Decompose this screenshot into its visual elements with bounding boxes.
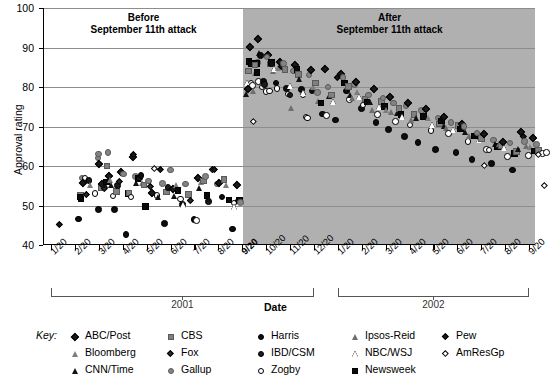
data-point <box>198 179 204 185</box>
data-point <box>107 177 113 183</box>
y-tick-label: 90 <box>6 43 34 53</box>
data-point <box>125 190 132 197</box>
data-point <box>108 182 114 188</box>
y-tick-label: 50 <box>6 201 34 211</box>
legend-marker-glyph <box>352 334 358 340</box>
legend-label: NBC/WSJ <box>365 346 412 358</box>
legend-label: CBS <box>181 329 203 341</box>
data-point <box>539 150 546 157</box>
gridline <box>44 8 535 9</box>
annotation-line-1: After <box>320 12 460 24</box>
data-point <box>171 193 177 199</box>
legend-key-label: Key: <box>36 329 57 341</box>
data-point <box>215 179 223 187</box>
data-point <box>537 151 543 157</box>
annotation-line-1: Before <box>84 12 204 24</box>
data-point <box>535 147 542 154</box>
legend-marker-glyph <box>442 350 449 357</box>
data-point <box>98 180 106 188</box>
data-point <box>126 190 133 197</box>
annotation-line-2: September 11th attack <box>84 24 204 36</box>
data-point <box>214 181 221 188</box>
data-point <box>95 206 102 213</box>
data-point <box>535 151 542 158</box>
legend-label: Newsweek <box>365 363 416 375</box>
data-point <box>95 151 102 158</box>
data-point <box>235 197 242 204</box>
data-point <box>86 177 93 184</box>
y-tick-label: 40 <box>6 240 34 250</box>
gridline <box>44 166 535 167</box>
data-point <box>182 181 189 188</box>
data-point <box>92 190 99 197</box>
data-point <box>159 180 166 187</box>
data-point <box>202 173 209 180</box>
data-point <box>229 226 236 233</box>
data-point <box>133 180 139 186</box>
data-point <box>113 188 120 195</box>
data-point <box>98 184 105 191</box>
annotation-before: BeforeSeptember 11th attack <box>84 12 204 36</box>
legend-marker-glyph <box>167 350 174 357</box>
data-point <box>205 198 212 205</box>
data-point <box>145 178 152 185</box>
data-point <box>155 194 161 200</box>
data-point <box>138 172 145 179</box>
legend-marker-glyph <box>168 368 174 374</box>
data-point <box>163 189 170 196</box>
legend-label: Harris <box>271 329 299 341</box>
data-point <box>105 149 112 156</box>
legend-label: Pew <box>456 329 476 341</box>
annotation-after: AfterSeptember 11th attack <box>320 12 460 36</box>
legend-marker-glyph <box>72 368 78 374</box>
data-point <box>75 216 82 223</box>
data-point <box>223 182 229 188</box>
data-point <box>132 173 139 180</box>
plot-area: BeforeSeptember 11th attack AfterSeptemb… <box>43 8 535 245</box>
data-point <box>173 182 179 188</box>
legend-label: IBD/CSM <box>271 346 315 358</box>
data-point <box>83 191 90 198</box>
data-point <box>177 196 184 203</box>
legend-label: Bloomberg <box>85 346 136 358</box>
data-point <box>123 231 130 238</box>
y-tick-label: 70 <box>6 122 34 132</box>
gridline <box>44 206 535 207</box>
data-point <box>139 180 145 186</box>
data-point <box>95 155 102 162</box>
data-point <box>111 206 118 213</box>
y-tick-label: 80 <box>6 82 34 92</box>
legend-marker-glyph <box>168 334 174 340</box>
data-point <box>165 184 172 191</box>
data-point <box>130 151 137 158</box>
legend-label: Ipsos-Reid <box>365 329 415 341</box>
legend: Key: ABC/PostBloombergCNN/TimeCBSFoxGall… <box>0 326 535 386</box>
data-point <box>204 192 211 199</box>
data-point <box>185 191 192 198</box>
data-point <box>114 182 121 189</box>
legend-marker-glyph <box>71 333 79 341</box>
data-point <box>232 181 240 189</box>
data-point <box>82 175 89 182</box>
data-point <box>141 182 148 189</box>
data-point <box>103 179 110 186</box>
data-point <box>79 175 86 182</box>
x-axis-title: Date <box>264 301 287 313</box>
year-bracket <box>51 288 314 297</box>
data-point <box>226 197 233 204</box>
legend-marker-glyph <box>442 333 449 340</box>
legend-label: ABC/Post <box>85 329 131 341</box>
data-point <box>154 192 161 199</box>
data-point <box>128 194 135 201</box>
data-point <box>147 183 154 190</box>
legend-label: AmResGp <box>456 346 504 358</box>
y-tick-mark <box>39 245 43 246</box>
data-point <box>148 189 156 197</box>
data-point <box>161 220 168 227</box>
legend-marker-glyph <box>352 368 358 374</box>
data-point <box>120 171 127 178</box>
legend-marker-glyph <box>258 368 264 374</box>
data-point <box>236 197 243 204</box>
data-point <box>196 185 202 191</box>
